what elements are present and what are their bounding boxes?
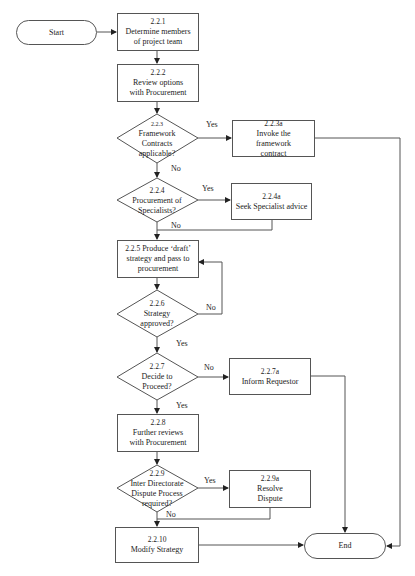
step-2-2-2[interactable]: 2.2.2 Review options with Procurement xyxy=(117,64,199,102)
decision-2-2-3[interactable]: 2.2.3 Framework Contracts applicable? xyxy=(127,118,187,160)
decision-text: Strategy approved? xyxy=(127,309,187,329)
no-label: No xyxy=(204,363,214,372)
no-label: No xyxy=(166,510,176,519)
step-2-2-9a[interactable]: 2.2.9a Resolve Dispute xyxy=(229,470,311,508)
step-2-2-8[interactable]: 2.2.8 Further reviews with Procurement xyxy=(117,414,199,452)
decision-2-2-4[interactable]: 2.2.4 Procurement of Specialists? xyxy=(127,184,187,218)
end-label: End xyxy=(339,541,352,551)
yes-label: Yes xyxy=(176,339,188,348)
no-label: No xyxy=(171,164,181,173)
decision-2-2-7[interactable]: 2.2.7 Decide to Proceed? xyxy=(127,359,187,395)
step-2-2-5[interactable]: 2.2.5 Produce ‘draft’ strategy and pass … xyxy=(117,240,199,278)
step-2-2-1[interactable]: 2.2.1 Determine members of project team xyxy=(117,13,199,51)
step-text: Resolve Dispute xyxy=(230,484,310,504)
decision-id: 2.2.3 xyxy=(151,119,163,129)
step-id: 2.2.8 xyxy=(151,418,166,428)
start-label: Start xyxy=(49,28,64,38)
decision-id: 2.2.4 xyxy=(150,186,165,196)
decision-text: Procurement of Specialists? xyxy=(127,196,187,216)
decision-text: Decide to Proceed? xyxy=(127,372,187,392)
yes-label: Yes xyxy=(206,120,218,129)
decision-2-2-9[interactable]: 2.2.9 Inter Directorate Dispute Process … xyxy=(122,468,192,510)
step-id: 2.2.3a xyxy=(264,119,282,129)
step-2-2-4a[interactable]: 2.2.4a Seek Specialist advice xyxy=(231,183,312,220)
start-terminator[interactable]: Start xyxy=(16,20,97,45)
step-text: Further reviews with Procurement xyxy=(118,428,198,448)
decision-text: Framework Contracts applicable? xyxy=(127,129,187,159)
step-id: 2.2.2 xyxy=(151,68,166,78)
step-id: 2.2.10 xyxy=(148,535,167,545)
no-label: No xyxy=(206,303,216,312)
yes-label: Yes xyxy=(176,401,188,410)
step-2-2-10[interactable]: 2.2.10 Modify Strategy xyxy=(115,527,199,563)
step-id: 2.2.4a xyxy=(262,192,280,202)
connector-lines xyxy=(0,0,415,576)
decision-id: 2.2.9 xyxy=(150,469,165,479)
end-terminator[interactable]: End xyxy=(304,533,386,559)
step-id: 2.2.1 xyxy=(151,17,166,27)
step-text: Inform Requestor xyxy=(242,377,299,387)
step-text: 2.2.5 Produce ‘draft’ strategy and pass … xyxy=(118,244,198,274)
step-text: Seek Specialist advice xyxy=(236,202,308,212)
decision-2-2-6[interactable]: 2.2.6 Strategy approved? xyxy=(127,296,187,332)
step-text: Invoke the framework contract xyxy=(233,129,314,159)
step-2-2-7a[interactable]: 2.2.7a Inform Requestor xyxy=(229,358,311,395)
yes-label: Yes xyxy=(204,476,216,485)
decision-text: Inter Directorate Dispute Process requir… xyxy=(122,479,192,509)
step-text: Review options with Procurement xyxy=(118,78,198,98)
decision-id: 2.2.7 xyxy=(150,362,165,372)
decision-id: 2.2.6 xyxy=(150,299,165,309)
step-text: Modify Strategy xyxy=(131,545,184,555)
no-label: No xyxy=(171,221,181,230)
step-id: 2.2.7a xyxy=(261,367,279,377)
step-id: 2.2.5 xyxy=(125,244,140,253)
step-2-2-3a[interactable]: 2.2.3a Invoke the framework contract xyxy=(232,120,315,157)
step-id: 2.2.9a xyxy=(261,474,279,484)
yes-label: Yes xyxy=(202,184,214,193)
step-text: Determine members of project team xyxy=(118,27,198,47)
